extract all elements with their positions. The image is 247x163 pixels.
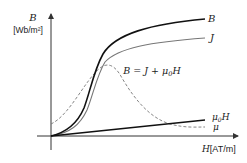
x-axis-label: H[AT/m] (201, 144, 236, 154)
equation: B = J + μ0H (122, 65, 181, 78)
equation-plus: + (148, 65, 162, 76)
b-curve (51, 19, 205, 136)
mu0h-label-h: H (221, 112, 230, 122)
magnetization-diagram: B [Wb/m²] H[AT/m] B J μ0H μ B = J + μ0H (0, 0, 247, 163)
mu-curve-label: μ (213, 122, 219, 132)
x-axis-unit: [AT/m] (210, 144, 236, 154)
j-curve-label: J (208, 32, 215, 43)
equation-h: H (171, 65, 181, 76)
y-axis-symbol: B (28, 12, 36, 23)
y-axis-unit: [Wb/m²] (13, 25, 43, 35)
b-curve-label: B (207, 13, 215, 24)
x-axis-symbol: H (201, 144, 210, 154)
equation-eq: = (130, 65, 144, 76)
j-curve (51, 38, 205, 136)
equation-lhs: B (122, 65, 130, 76)
